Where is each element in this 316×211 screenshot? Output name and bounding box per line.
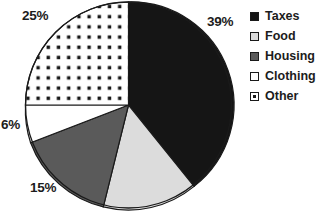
- legend-label-food: Food: [265, 30, 296, 43]
- legend-item-food: Food: [250, 26, 316, 46]
- legend-label-clothing: Clothing: [265, 70, 316, 83]
- legend-swatch-clothing-icon: [250, 72, 259, 81]
- chart-legend: Taxes Food Housing Clothing Other: [250, 6, 316, 106]
- legend-item-housing: Housing: [250, 46, 316, 66]
- legend-label-taxes: Taxes: [265, 10, 300, 23]
- legend-label-housing: Housing: [265, 50, 315, 63]
- slice-label-taxes: 39%: [207, 14, 233, 29]
- legend-swatch-food-icon: [250, 32, 259, 41]
- legend-item-clothing: Clothing: [250, 66, 316, 86]
- slice-label-other: 25%: [22, 8, 48, 23]
- legend-swatch-housing-icon: [250, 52, 259, 61]
- legend-swatch-other-icon: [250, 92, 259, 101]
- legend-label-other: Other: [265, 90, 298, 103]
- slice-label-clothing: 6%: [1, 117, 20, 132]
- legend-item-taxes: Taxes: [250, 6, 316, 26]
- pie-chart-figure: 39% 25% 6% 15% Taxes Food Housing Clothi…: [0, 0, 316, 211]
- legend-item-other: Other: [250, 86, 316, 106]
- slice-label-housing: 15%: [30, 180, 56, 195]
- legend-swatch-taxes-icon: [250, 12, 259, 21]
